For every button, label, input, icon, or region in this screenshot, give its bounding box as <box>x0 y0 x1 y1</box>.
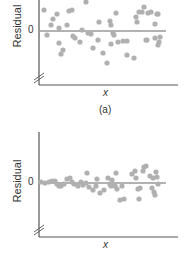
panel-b-xlabel: x <box>103 239 108 250</box>
data-point <box>79 27 84 32</box>
data-point <box>124 52 129 57</box>
data-point <box>154 11 159 16</box>
data-point <box>153 169 158 174</box>
panel-a-points <box>41 0 162 66</box>
data-point <box>152 21 157 26</box>
data-point <box>100 50 105 55</box>
data-point <box>131 55 136 60</box>
data-point <box>77 39 82 44</box>
data-point <box>84 170 89 175</box>
data-point <box>132 168 137 173</box>
data-point <box>133 14 138 19</box>
data-point <box>155 42 160 47</box>
panel-a-xlabel: x <box>103 87 108 98</box>
data-point <box>115 39 120 44</box>
data-point <box>41 7 46 12</box>
data-point <box>136 196 141 201</box>
data-point <box>154 174 159 179</box>
data-point <box>90 45 95 50</box>
data-point <box>50 16 55 21</box>
data-point <box>152 35 157 40</box>
data-point <box>113 170 118 175</box>
data-point <box>69 7 74 12</box>
panel-b-zero-tick: 0 <box>28 176 34 187</box>
residual-plots <box>0 0 188 269</box>
data-point <box>56 40 61 45</box>
data-point <box>96 19 101 24</box>
data-point <box>141 4 146 9</box>
data-point <box>155 181 160 186</box>
data-point <box>157 34 162 39</box>
data-point <box>83 0 88 5</box>
data-point <box>111 32 116 37</box>
data-point <box>124 38 129 43</box>
data-point <box>60 47 65 52</box>
panel-a-caption: (a) <box>99 104 111 115</box>
data-point <box>119 183 124 188</box>
data-point <box>44 32 49 37</box>
data-point <box>134 19 139 24</box>
data-point <box>113 10 118 15</box>
data-point <box>143 163 148 168</box>
data-point <box>72 35 77 40</box>
data-point <box>48 22 53 27</box>
panel-a-ylabel: Residual <box>11 1 23 51</box>
data-point <box>93 183 98 188</box>
data-point <box>133 175 138 180</box>
data-point <box>88 31 93 36</box>
data-point <box>54 11 59 16</box>
data-point <box>139 9 144 14</box>
data-point <box>95 37 100 42</box>
data-point <box>109 177 114 182</box>
data-point <box>94 176 99 181</box>
data-point <box>64 22 69 27</box>
data-point <box>61 181 66 186</box>
panel-b-ylabel: Residual <box>11 156 23 206</box>
data-point <box>114 186 119 191</box>
data-point <box>152 192 157 197</box>
panel-a-zero-tick: 0 <box>28 24 34 35</box>
data-point <box>101 187 106 192</box>
data-point <box>56 25 61 30</box>
data-point <box>104 60 109 65</box>
data-point <box>137 185 142 190</box>
data-point <box>108 22 113 27</box>
data-point <box>121 196 126 201</box>
data-point <box>144 37 149 42</box>
data-point <box>108 41 113 46</box>
data-point <box>148 9 153 14</box>
